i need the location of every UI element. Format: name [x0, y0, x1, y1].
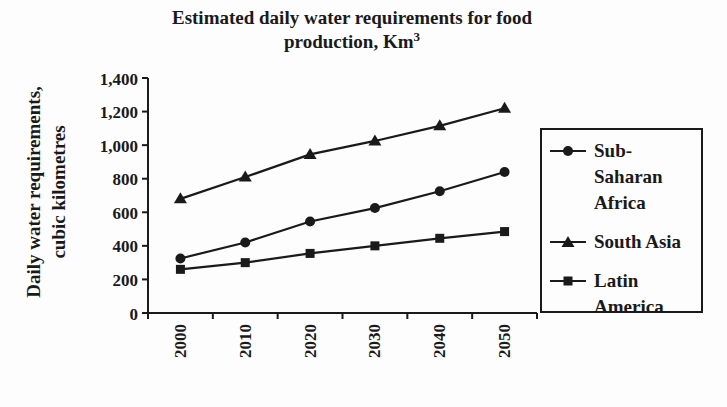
x-tick-label: 2030: [365, 324, 384, 358]
data-point-south-asia: [498, 102, 511, 113]
legend-label: South Asia: [594, 229, 696, 255]
data-point-latin-america: [306, 249, 315, 258]
data-point-sub-saharan-africa: [240, 238, 250, 248]
y-tick-label: 1,000: [100, 137, 138, 156]
x-tick-label: 2020: [301, 324, 320, 358]
y-tick-label: 1,400: [100, 70, 138, 89]
data-point-latin-america: [435, 234, 444, 243]
y-tick-label: 400: [113, 237, 139, 256]
data-point-sub-saharan-africa: [175, 253, 185, 263]
chart-figure: Estimated daily water requirements for f…: [0, 0, 727, 407]
data-point-sub-saharan-africa: [435, 186, 445, 196]
legend-label: Sub-Saharan Africa: [594, 138, 696, 216]
y-tick-label: 200: [113, 271, 139, 290]
legend-item-south-asia: South Asia: [550, 229, 697, 255]
y-tick-label: 1,200: [100, 103, 138, 122]
data-point-latin-america: [241, 258, 250, 267]
legend: Sub-Saharan Africa South Asia Latin Amer…: [540, 128, 703, 313]
triangle-marker-icon: [550, 235, 586, 249]
y-tick-label: 0: [130, 305, 139, 324]
data-point-latin-america: [370, 241, 379, 250]
series-line-sub-saharan-africa: [180, 172, 504, 258]
x-tick-label: 2040: [430, 324, 449, 358]
data-point-sub-saharan-africa: [500, 167, 510, 177]
data-point-latin-america: [176, 265, 185, 274]
legend-label: Latin America: [594, 268, 696, 320]
y-tick-label: 800: [113, 170, 139, 189]
x-tick-label: 2010: [236, 324, 255, 358]
legend-item-latin-america: Latin America: [550, 268, 697, 320]
square-marker-icon: [550, 274, 586, 288]
series-line-latin-america: [180, 232, 504, 270]
x-tick-label: 2050: [495, 324, 514, 358]
x-tick-label: 2000: [171, 324, 190, 358]
y-tick-label: 600: [113, 204, 139, 223]
data-point-sub-saharan-africa: [370, 203, 380, 213]
data-point-latin-america: [500, 227, 509, 236]
legend-item-sub-saharan-africa: Sub-Saharan Africa: [550, 138, 697, 216]
data-point-sub-saharan-africa: [305, 217, 315, 227]
circle-marker-icon: [550, 144, 586, 158]
series-line-south-asia: [180, 108, 504, 199]
